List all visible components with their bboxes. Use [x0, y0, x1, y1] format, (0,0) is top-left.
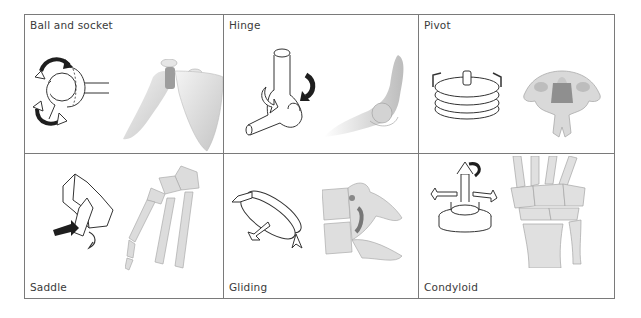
joint-label-saddle: Saddle [30, 281, 67, 293]
elbow-joint-icon [324, 55, 419, 145]
cell-condyloid: Condyloid [419, 154, 614, 298]
condyloid-model-icon [429, 158, 499, 238]
thumb-carpometacarpal-joint-icon [125, 164, 205, 274]
intervertebral-facet-joint-icon [322, 178, 407, 268]
hinge-model-icon [244, 35, 324, 145]
joint-label-pivot: Pivot [424, 19, 451, 31]
shoulder-joint-icon [123, 59, 223, 154]
cell-hinge: Hinge [224, 15, 419, 154]
cell-saddle: Saddle [25, 154, 224, 298]
gliding-model-icon [232, 182, 312, 252]
joint-types-grid: Ball and socket [24, 14, 615, 299]
cell-ball-and-socket: Ball and socket [25, 15, 224, 154]
joint-label-ball-and-socket: Ball and socket [30, 19, 113, 31]
cell-gliding: Gliding [224, 154, 419, 298]
saddle-model-icon [49, 170, 119, 250]
joint-label-hinge: Hinge [229, 19, 261, 31]
joint-label-condyloid: Condyloid [424, 281, 478, 293]
wrist-joint-icon [503, 156, 603, 268]
cervical-vertebra-icon [519, 67, 605, 139]
joint-label-gliding: Gliding [229, 281, 267, 293]
pivot-model-icon [427, 69, 509, 125]
cell-pivot: Pivot [419, 15, 614, 154]
ball-and-socket-model-icon [29, 41, 109, 131]
